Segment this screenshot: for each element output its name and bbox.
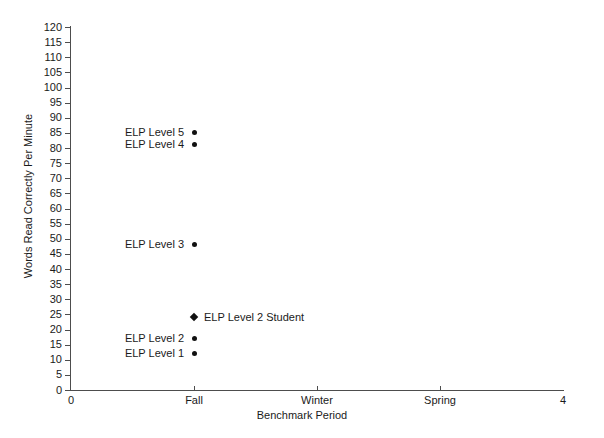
y-tick-label-wrap: 110 [0,52,62,63]
data-point-label: ELP Level 1 [0,348,184,359]
y-tick-label: 5 [2,369,62,380]
x-tick-label: Fall [154,394,234,406]
y-tick-label: 105 [2,67,62,78]
data-point[interactable] [192,351,197,356]
data-point[interactable] [192,242,197,247]
x-tick-label: Winter [277,394,357,406]
data-point-label: ELP Level 2 [0,333,184,344]
data-point[interactable] [192,336,197,341]
x-tick-label: 4 [523,394,603,406]
y-tick-label: 115 [2,37,62,48]
y-tick-label: 120 [2,22,62,33]
y-tick-label-wrap: 115 [0,37,62,48]
data-point[interactable] [192,130,197,135]
y-tick [65,390,71,391]
y-tick-label-wrap: 5 [0,369,62,380]
data-point-label: ELP Level 2 Student [204,312,304,323]
data-point-label: ELP Level 3 [0,239,184,250]
x-axis-title: Benchmark Period [0,409,604,421]
y-tick-label-wrap: 25 [0,309,62,320]
scatter-chart: 0510152025303540455055606570758085909510… [0,0,604,438]
data-point-label: ELP Level 5 [0,127,184,138]
y-axis-title: Words Read Correctly Per Minute [22,86,34,306]
y-tick-label: 110 [2,52,62,63]
data-point-label: ELP Level 4 [0,139,184,150]
y-tick-label-wrap: 105 [0,67,62,78]
y-tick-label-wrap: 120 [0,22,62,33]
x-tick-label: Spring [400,394,480,406]
x-tick-label: 0 [31,394,111,406]
y-tick-label: 25 [2,309,62,320]
